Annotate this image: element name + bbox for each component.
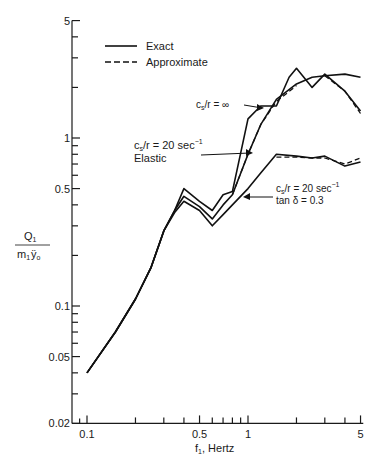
axes — [72, 21, 363, 424]
svg-text:cs/r = 20 sec−1: cs/r = 20 sec−1 — [276, 181, 340, 195]
arrowhead-icon — [243, 193, 250, 200]
svg-text:cs/r = 20 sec−1: cs/r = 20 sec−1 — [134, 138, 203, 152]
svg-text:Elastic: Elastic — [134, 152, 167, 164]
series-line — [276, 157, 360, 164]
legend-exact-label: Exact — [146, 40, 174, 52]
curves — [87, 68, 361, 373]
y-tick-label: 0.5 — [55, 183, 70, 195]
series-line — [232, 86, 296, 195]
y-tick-label: 0.1 — [55, 300, 70, 312]
series-line — [87, 74, 361, 373]
annotation-damped: cs/r = 20 sec−1 tan δ = 0.3 — [243, 181, 340, 206]
x-axis-label: f1, Hertz — [195, 442, 234, 455]
annotation-infinite: cs/r = ∞ — [196, 99, 264, 111]
y-tick-label: 1 — [64, 132, 70, 144]
svg-text:m1ÿo: m1ÿo — [17, 248, 41, 261]
y-tick-label: 5 — [64, 15, 70, 27]
x-tick-label: 5 — [357, 428, 363, 440]
series-line — [87, 68, 361, 373]
x-tick-label: 0.5 — [192, 428, 207, 440]
y-tick-label: 0.02 — [49, 417, 70, 429]
legend: Exact Approximate — [105, 40, 208, 68]
legend-approx-label: Approximate — [146, 56, 208, 68]
arrowhead-icon — [257, 104, 264, 111]
y-axis-label: Q1 m1ÿo — [15, 230, 50, 261]
tick-labels: 0.020.050.10.5150.10.515 — [49, 15, 364, 441]
response-chart: 0.020.050.10.5150.10.515 Exact Approxima… — [0, 0, 385, 470]
y-tick-label: 0.05 — [49, 351, 70, 363]
svg-text:Q1: Q1 — [24, 230, 37, 243]
series-line — [325, 76, 361, 114]
svg-text:cs/r = ∞: cs/r = ∞ — [196, 99, 229, 111]
x-tick-label: 0.1 — [79, 428, 94, 440]
svg-text:tan δ = 0.3: tan δ = 0.3 — [276, 195, 324, 206]
x-tick-label: 1 — [245, 428, 251, 440]
svg-text:f1, Hertz: f1, Hertz — [195, 442, 234, 455]
annotation-elastic: cs/r = 20 sec−1 Elastic — [134, 138, 253, 164]
annotation-arrow — [201, 153, 250, 155]
